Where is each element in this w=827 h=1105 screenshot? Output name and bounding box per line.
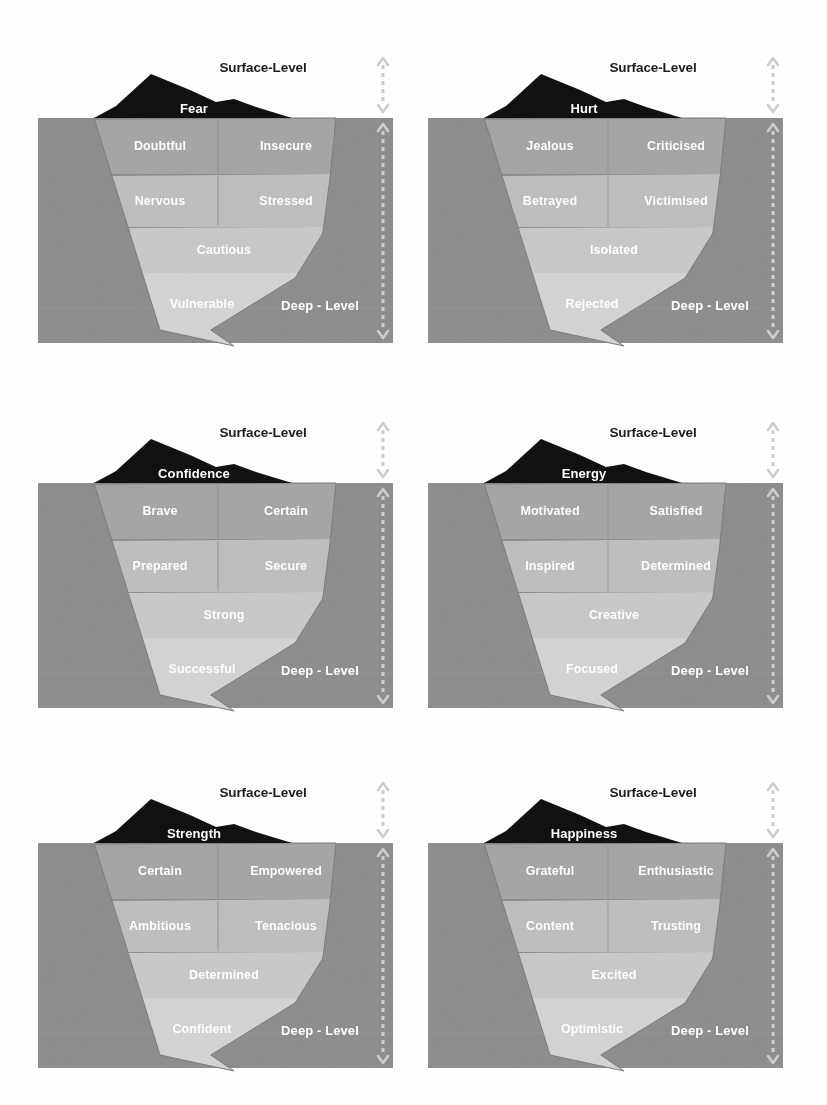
- dashed-arrow: [378, 783, 388, 837]
- iceberg-band-2: [502, 174, 720, 227]
- iceberg-band-3: [518, 227, 713, 273]
- iceberg-tip: [94, 74, 292, 118]
- iceberg-diagram: [20, 753, 410, 1083]
- dashed-arrow: [378, 423, 388, 477]
- dashed-arrow: [768, 423, 778, 477]
- iceberg-band-3: [128, 952, 323, 998]
- iceberg-band-2: [112, 174, 330, 227]
- iceberg-band-3: [518, 592, 713, 638]
- iceberg-band-2: [112, 539, 330, 592]
- iceberg-band-2: [112, 899, 330, 952]
- iceberg-diagram: [20, 28, 410, 358]
- iceberg-panel-hurt: Surface-LevelHurtJealousCriticisedBetray…: [410, 28, 800, 358]
- iceberg-band-1: [95, 483, 336, 539]
- iceberg-diagram: [410, 753, 800, 1083]
- iceberg-diagram: [410, 393, 800, 723]
- iceberg-band-1: [95, 843, 336, 899]
- iceberg-panel-grid: Surface-LevelFearDoubtfulInsecureNervous…: [0, 0, 827, 1105]
- iceberg-band-2: [502, 899, 720, 952]
- iceberg-band-1: [485, 843, 726, 899]
- iceberg-band-3: [518, 952, 713, 998]
- dashed-arrow: [378, 58, 388, 112]
- iceberg-band-3: [128, 227, 323, 273]
- iceberg-panel-energy: Surface-LevelEnergyMotivatedSatisfiedIns…: [410, 393, 800, 723]
- iceberg-band-3: [128, 592, 323, 638]
- dashed-arrow: [768, 783, 778, 837]
- dashed-arrow: [768, 58, 778, 112]
- iceberg-tip: [94, 799, 292, 843]
- iceberg-panel-fear: Surface-LevelFearDoubtfulInsecureNervous…: [20, 28, 410, 358]
- iceberg-band-1: [485, 483, 726, 539]
- iceberg-tip: [94, 439, 292, 483]
- iceberg-panel-happiness: Surface-LevelHappinessGratefulEnthusiast…: [410, 753, 800, 1083]
- iceberg-band-1: [95, 118, 336, 174]
- iceberg-panel-strength: Surface-LevelStrengthCertainEmpoweredAmb…: [20, 753, 410, 1083]
- iceberg-tip: [484, 439, 682, 483]
- iceberg-tip: [484, 799, 682, 843]
- iceberg-diagram: [20, 393, 410, 723]
- iceberg-band-2: [502, 539, 720, 592]
- iceberg-diagram: [410, 28, 800, 358]
- iceberg-band-1: [485, 118, 726, 174]
- iceberg-panel-confidence: Surface-LevelConfidenceBraveCertainPrepa…: [20, 393, 410, 723]
- iceberg-tip: [484, 74, 682, 118]
- poster-sheet: Surface-LevelFearDoubtfulInsecureNervous…: [0, 0, 827, 1105]
